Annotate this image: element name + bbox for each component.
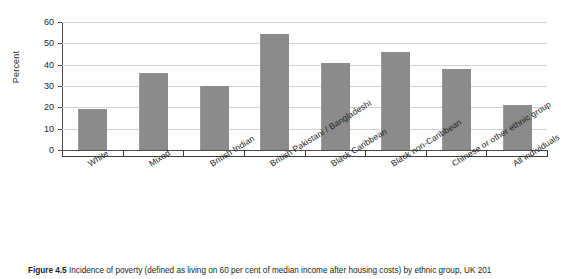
y-axis-tick-label: 20 — [8, 102, 54, 112]
caption-figure-number: Figure 4.5 — [28, 266, 67, 275]
x-axis-tickmark — [62, 150, 63, 157]
caption-text: Incidence of poverty (defined as living … — [69, 266, 491, 275]
bar — [200, 86, 229, 150]
x-axis-tickmark — [244, 150, 245, 157]
y-axis-tick-label: 40 — [8, 60, 54, 70]
x-axis-tickmark — [123, 150, 124, 157]
x-axis-tickmark — [183, 150, 184, 157]
y-axis-tick-label: 30 — [8, 81, 54, 91]
x-axis-tickmark — [486, 150, 487, 157]
y-axis-tick-label: 10 — [8, 124, 54, 134]
bar — [442, 69, 471, 150]
bar — [260, 34, 289, 150]
bar — [78, 109, 107, 150]
y-axis-tick-label: 0 — [8, 145, 54, 155]
x-axis-tickmark — [426, 150, 427, 157]
bar — [321, 63, 350, 150]
bar-chart: Percent 0102030405060 WhiteMixedBritish … — [0, 0, 557, 240]
figure-caption: Figure 4.5 Incidence of poverty (defined… — [28, 265, 552, 276]
x-axis-tickmark — [365, 150, 366, 157]
x-axis-tickmark — [305, 150, 306, 157]
x-axis-category-label: White — [86, 148, 110, 168]
x-axis-tickmark — [547, 150, 548, 157]
bar-series — [62, 22, 547, 150]
y-axis-tick-label: 50 — [8, 38, 54, 48]
y-axis-tick-label: 60 — [8, 17, 54, 27]
bar — [139, 73, 168, 150]
